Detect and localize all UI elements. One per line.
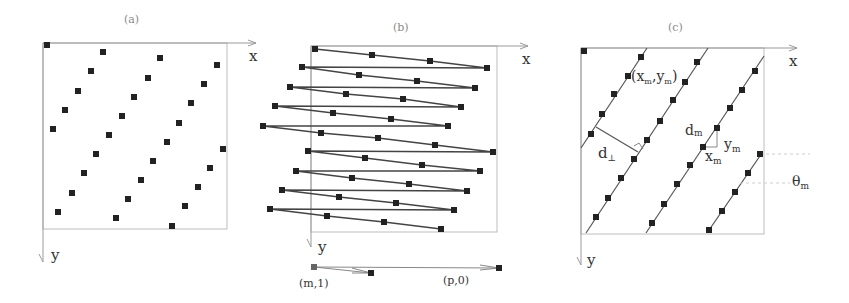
panel-c: (c) x y <box>577 21 810 269</box>
y-axis-arrow-icon <box>307 239 311 247</box>
vector-p0-label: (p,0) <box>443 274 469 287</box>
lattice-point <box>293 168 299 174</box>
lattice-point <box>131 94 137 100</box>
y-m-label: ym <box>723 136 741 154</box>
lattice-point <box>324 213 330 219</box>
lattice-point <box>260 123 266 129</box>
lattice-point <box>164 139 170 145</box>
lattice-figure: (a) x y (b) x y (m,1) (p,0) (c) <box>0 0 849 303</box>
lattice-point <box>176 120 182 126</box>
lattice-point <box>427 58 433 64</box>
y-axis-arrow-icon <box>39 254 43 262</box>
lattice-point <box>400 96 406 102</box>
lattice-point <box>445 123 451 129</box>
lattice-point <box>207 165 213 171</box>
lattice-point <box>349 175 355 181</box>
lattice-point <box>88 68 94 74</box>
lattice-point <box>44 42 50 48</box>
vector-m1-end <box>368 270 374 276</box>
x-axis-label: x <box>789 52 798 70</box>
lattice-point <box>267 206 273 212</box>
lattice-point <box>75 88 81 94</box>
panel-a-title: (a) <box>124 13 139 26</box>
lattice-point <box>464 188 470 194</box>
lattice-point <box>472 85 478 91</box>
lattice-point <box>393 200 399 206</box>
lattice-point <box>272 103 278 109</box>
lattice-point <box>119 113 125 119</box>
panel-b: (b) x y (m,1) (p,0) <box>260 21 531 290</box>
lattice-point <box>381 219 387 225</box>
y-axis-label: y <box>317 238 327 256</box>
point-xm-ym-label: (xm,ym) <box>631 68 677 86</box>
lattice-point <box>138 177 144 183</box>
lattice-point <box>69 190 75 196</box>
lattice-point <box>336 194 342 200</box>
d-m-label: dm <box>685 122 703 138</box>
x-axis-label: x <box>249 47 258 65</box>
lattice-point <box>419 162 425 168</box>
lattice-point <box>369 52 375 58</box>
lattice-point <box>50 126 56 132</box>
x-m-label: xm <box>705 148 722 166</box>
lattice-points <box>44 42 226 229</box>
lattice-point <box>201 81 207 87</box>
lattice-point <box>451 207 457 213</box>
vector-p0 <box>314 267 499 268</box>
d-perp-label: d⊥ <box>598 144 616 163</box>
lattice-point <box>432 142 438 148</box>
lattice-point <box>458 104 464 110</box>
lattice-point <box>305 148 311 154</box>
lattice-point <box>375 135 381 141</box>
lattice-points <box>260 46 496 232</box>
lattice-point <box>312 46 318 52</box>
lattice-point <box>62 107 68 113</box>
lattice-point <box>287 84 293 90</box>
lattice-point <box>490 149 496 155</box>
lattice-point <box>414 78 420 84</box>
lattice-point <box>195 184 201 190</box>
lattice-point <box>182 203 188 209</box>
vector-m1 <box>314 267 371 273</box>
vector-p0-end <box>496 265 502 271</box>
y-axis-label: y <box>586 251 596 269</box>
lattice-point <box>55 209 61 215</box>
panel-a: (a) x y <box>39 13 258 264</box>
lattice-point <box>406 181 412 187</box>
lattice-point <box>388 116 394 122</box>
lattice-point <box>484 65 490 71</box>
lattice-point <box>477 168 483 174</box>
lattice-point <box>157 55 163 61</box>
y-axis-label: y <box>50 246 60 264</box>
lattice-point <box>343 91 349 97</box>
lattice-point <box>330 110 336 116</box>
lattice-point <box>145 75 151 81</box>
lattice-point <box>150 158 156 164</box>
panel-b-title: (b) <box>393 21 409 34</box>
lattice-point <box>438 226 444 232</box>
lattice-point <box>356 72 362 78</box>
lattice-point <box>279 187 285 193</box>
panel-a-frame <box>43 43 227 229</box>
lattice-point <box>100 49 106 55</box>
lattice-point <box>220 146 226 152</box>
lattice-point <box>106 132 112 138</box>
lattice-point <box>93 151 99 157</box>
vector-m1-label: (m,1) <box>299 277 329 290</box>
lattice-point <box>214 62 220 68</box>
theta-m-label: θm <box>792 173 809 191</box>
panel-c-title: (c) <box>668 21 683 34</box>
lattice-point <box>362 155 368 161</box>
lattice-point <box>299 64 305 70</box>
lattice-point <box>188 100 194 106</box>
lattice-point <box>169 223 175 229</box>
lattice-point <box>125 196 131 202</box>
lattice-point <box>81 170 87 176</box>
origin-point <box>311 264 317 270</box>
y-axis-arrow-icon <box>577 257 581 265</box>
lattice-point <box>318 130 324 136</box>
lattice-point <box>113 215 119 221</box>
x-axis-label: x <box>522 50 531 68</box>
